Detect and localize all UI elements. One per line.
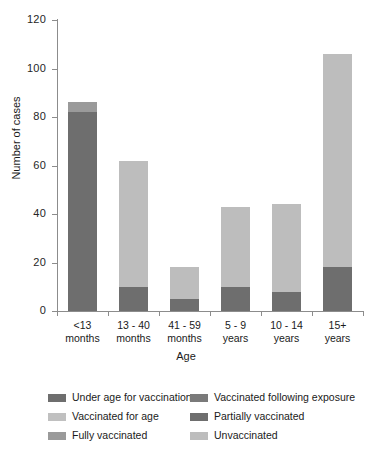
bar-segment — [272, 292, 301, 311]
y-axis-tick-label: 60 — [0, 160, 46, 171]
x-axis-tick — [57, 311, 58, 316]
bar-segment — [272, 204, 301, 291]
bar-4 — [221, 20, 250, 311]
x-axis-tick — [312, 311, 313, 316]
legend-swatch-icon — [190, 432, 208, 440]
bar-segment — [68, 102, 97, 112]
y-axis-tick-label: 80 — [0, 111, 46, 122]
legend-item[interactable]: Vaccinated for age — [48, 411, 190, 422]
legend-swatch-icon — [48, 432, 66, 440]
x-axis-category-label: 41 - 59 months — [159, 319, 210, 344]
bar-6 — [323, 20, 352, 311]
x-axis-category-label: 13 - 40 months — [108, 319, 159, 344]
x-axis-category-label: <13 months — [57, 319, 108, 344]
bar-segment — [221, 287, 250, 311]
bar-chart: Number of cases 120100806040200 <13 mont… — [0, 0, 372, 452]
y-axis-tick-label: 0 — [0, 305, 46, 316]
y-axis-tick-label: 120 — [0, 14, 46, 25]
chart-legend: Under age for vaccinationVaccinated foll… — [48, 388, 360, 445]
bar-segment — [323, 267, 352, 311]
bar-segment — [221, 207, 250, 287]
legend-item[interactable]: Partially vaccinated — [190, 411, 360, 422]
x-axis-category-label: 5 - 9 years — [210, 319, 261, 344]
legend-label: Vaccinated following exposure — [214, 392, 355, 403]
y-axis-tick-label: 20 — [0, 257, 46, 268]
y-axis-tick-label: 40 — [0, 208, 46, 219]
x-axis-category-label: 10 - 14 years — [261, 319, 312, 344]
legend-item[interactable]: Fully vaccinated — [48, 430, 190, 441]
x-axis-tick — [210, 311, 211, 316]
bar-segment — [323, 54, 352, 267]
x-axis-tick — [159, 311, 160, 316]
bar-segment — [170, 267, 199, 299]
legend-label: Partially vaccinated — [214, 411, 304, 422]
legend-label: Unvaccinated — [214, 430, 278, 441]
bar-segment — [119, 161, 148, 287]
bar-1 — [68, 20, 97, 311]
y-axis-title: Number of cases — [10, 68, 22, 208]
legend-item[interactable]: Vaccinated following exposure — [190, 392, 360, 403]
legend-item[interactable]: Under age for vaccination — [48, 392, 190, 403]
bar-5 — [272, 20, 301, 311]
x-axis-tick — [363, 311, 364, 316]
bar-segment — [119, 287, 148, 311]
x-axis-tick — [261, 311, 262, 316]
y-axis-tick-label: 100 — [0, 63, 46, 74]
legend-label: Vaccinated for age — [72, 411, 159, 422]
legend-item[interactable]: Unvaccinated — [190, 430, 360, 441]
legend-swatch-icon — [48, 413, 66, 421]
legend-swatch-icon — [190, 413, 208, 421]
bar-segment — [68, 112, 97, 311]
x-axis-category-label: 15+ years — [312, 319, 363, 344]
bar-segment — [170, 299, 199, 311]
bar-2 — [119, 20, 148, 311]
x-axis-title: Age — [0, 350, 372, 362]
x-axis-tick — [108, 311, 109, 316]
bar-3 — [170, 20, 199, 311]
plot-area — [57, 20, 363, 311]
legend-swatch-icon — [190, 394, 208, 402]
legend-label: Under age for vaccination — [72, 392, 192, 403]
legend-swatch-icon — [48, 394, 66, 402]
legend-label: Fully vaccinated — [72, 430, 147, 441]
